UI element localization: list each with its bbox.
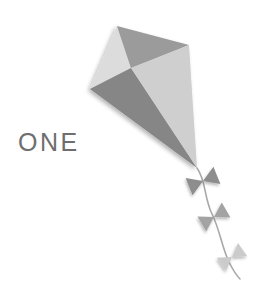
kite-bow-1 bbox=[186, 167, 221, 195]
kite-bow-2 bbox=[198, 202, 231, 231]
kite-tail-bows bbox=[186, 167, 248, 271]
kite-body bbox=[90, 26, 197, 168]
page-title: ONE bbox=[18, 130, 80, 155]
illustration-canvas: ONE bbox=[0, 0, 264, 281]
